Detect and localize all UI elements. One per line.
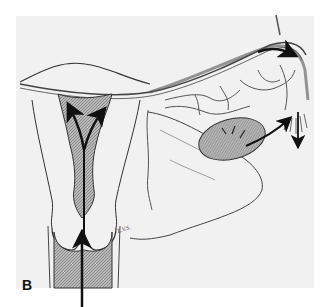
fallopian-tube bbox=[150, 46, 308, 100]
fimbriae bbox=[284, 114, 307, 134]
uterine-fundus bbox=[20, 63, 150, 84]
uterine-wall-right bbox=[115, 100, 140, 228]
panel-label: B bbox=[22, 277, 32, 293]
anatomy-illustration bbox=[0, 0, 326, 307]
uterine-wall-left bbox=[32, 100, 53, 228]
tube-vertical-stem bbox=[276, 15, 280, 35]
